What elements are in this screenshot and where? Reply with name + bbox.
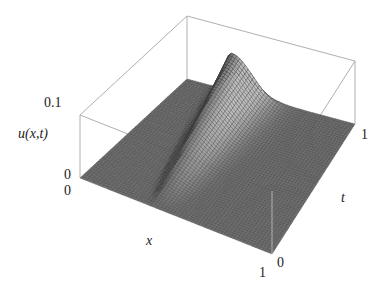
t-tick-max: 1 xyxy=(361,128,368,142)
z-tick-min: 0 xyxy=(64,168,71,182)
t-axis-label: t xyxy=(341,191,345,205)
z-tick-max: 0.1 xyxy=(44,96,62,110)
x-axis-label: x xyxy=(146,234,152,248)
surface-plot xyxy=(0,0,382,291)
surface-mesh xyxy=(80,53,355,254)
z-axis-label: u(x,t) xyxy=(18,127,48,141)
t-tick-min: 0 xyxy=(277,256,284,270)
x-tick-max: 1 xyxy=(259,266,266,280)
x-tick-min: 0 xyxy=(64,184,71,198)
